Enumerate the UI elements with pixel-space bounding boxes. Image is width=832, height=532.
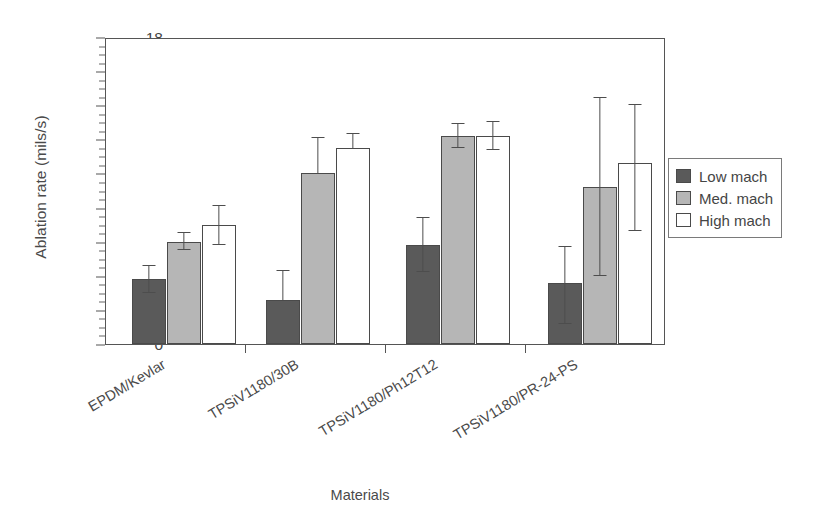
legend-item: High mach: [676, 209, 773, 231]
y-axis-major-tick: [96, 345, 105, 346]
bar-column: [202, 37, 236, 344]
error-bar-cap-lower: [178, 249, 191, 250]
legend-item-label: Med. mach: [699, 190, 773, 207]
error-bar-cap-upper: [143, 265, 156, 266]
error-bar-cap-lower: [594, 275, 607, 276]
y-axis-major-tick: [96, 208, 105, 209]
bar-column: [406, 37, 440, 344]
error-bar-line: [282, 271, 283, 300]
bar: [167, 242, 201, 344]
error-bar-line: [492, 122, 493, 149]
bar-column: [618, 37, 652, 344]
error-bar-line: [634, 105, 635, 231]
bar-group: [548, 39, 652, 344]
error-bar-line: [148, 266, 149, 293]
y-axis-major-tick: [96, 276, 105, 277]
y-axis-major-tick: [96, 174, 105, 175]
x-axis-tick: [525, 345, 526, 353]
error-bar-cap-lower: [629, 230, 642, 231]
bar-column: [266, 37, 300, 344]
bar-column: [548, 37, 582, 344]
legend-swatch-icon: [676, 213, 691, 227]
bar-column: [336, 37, 370, 344]
bar-group: [132, 39, 236, 344]
error-bar-cap-upper: [594, 97, 607, 98]
error-bar-line: [183, 233, 184, 250]
bar-column: [301, 37, 335, 344]
error-bar-cap-upper: [417, 217, 430, 218]
error-bar-cap-upper: [487, 121, 500, 122]
error-bar-cap-lower: [559, 323, 572, 324]
y-axis-major-tick: [96, 140, 105, 141]
bar-column: [476, 37, 510, 344]
bar-group: [266, 39, 370, 344]
legend-item: Med. mach: [676, 187, 773, 209]
legend-swatch-icon: [676, 191, 691, 205]
error-bar-cap-upper: [559, 246, 572, 247]
x-axis-title: Materials: [0, 487, 720, 503]
error-bar-line: [564, 247, 565, 324]
error-bar-cap-lower: [452, 147, 465, 148]
legend-item-label: High mach: [699, 212, 771, 229]
error-bar-line: [352, 134, 353, 148]
error-bar-cap-lower: [487, 149, 500, 150]
bar-column: [441, 37, 475, 344]
bar-column: [583, 37, 617, 344]
y-axis-major-tick: [96, 310, 105, 311]
bar-column: [167, 37, 201, 344]
error-bar-cap-upper: [277, 270, 290, 271]
y-axis-major-tick: [96, 242, 105, 243]
y-axis-major-tick: [96, 72, 105, 73]
bar: [336, 148, 370, 344]
bar: [476, 136, 510, 344]
error-bar-cap-upper: [213, 205, 226, 206]
error-bar-line: [218, 206, 219, 245]
x-axis-tick: [385, 345, 386, 353]
chart-legend: Low machMed. machHigh mach: [668, 158, 782, 238]
bar: [441, 136, 475, 344]
bar: [301, 173, 335, 344]
error-bar-cap-upper: [178, 232, 191, 233]
bar-column: [132, 37, 166, 344]
error-bar-line: [457, 124, 458, 148]
plot-area: [105, 38, 665, 345]
y-axis-title: Ablation rate (mils/s): [32, 72, 50, 302]
error-bar-cap-lower: [143, 292, 156, 293]
legend-swatch-icon: [676, 169, 691, 183]
legend-item-label: Low mach: [699, 168, 767, 185]
y-axis-major-tick: [96, 38, 105, 39]
bar-group: [406, 39, 510, 344]
error-bar-cap-upper: [629, 104, 642, 105]
error-bar-cap-upper: [312, 137, 325, 138]
error-bar-cap-lower: [213, 244, 226, 245]
y-axis-major-tick: [96, 106, 105, 107]
error-bar-cap-lower: [417, 271, 430, 272]
legend-item: Low mach: [676, 165, 773, 187]
error-bar-line: [317, 138, 318, 174]
bar: [266, 300, 300, 344]
error-bar-cap-upper: [452, 123, 465, 124]
x-axis-tick: [245, 345, 246, 353]
error-bar-cap-upper: [347, 133, 360, 134]
ablation-rate-bar-chart: Ablation rate (mils/s) 181612141086420 E…: [0, 0, 832, 532]
error-bar-line: [422, 218, 423, 273]
error-bar-line: [599, 98, 600, 275]
